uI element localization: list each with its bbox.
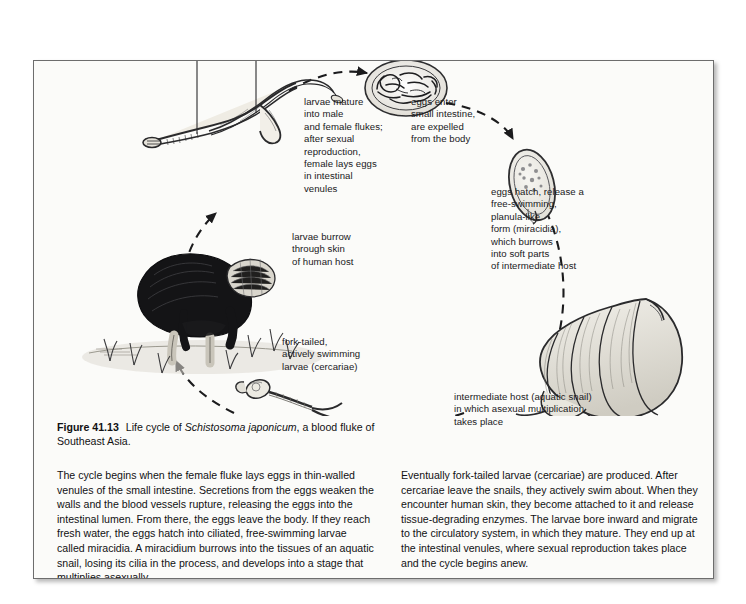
figure-number: Figure 41.13 xyxy=(57,421,119,433)
body-text-right-column: Eventually fork-tailed larvae (cercariae… xyxy=(401,468,701,570)
cercaria-illustration xyxy=(236,377,344,416)
figure-species-name: Schistosoma japonicum xyxy=(185,421,297,433)
label-eggs-enter: eggs enter small intestine, are expelled… xyxy=(411,96,475,146)
figure-page: male female larvae mature into male and … xyxy=(33,60,714,579)
figure-title-before: Life cycle of xyxy=(126,421,185,433)
label-larvae-mature: larvae mature into male and female fluke… xyxy=(304,96,383,195)
caption-block: Figure 41.13Life cycle of Schistosoma ja… xyxy=(34,416,713,578)
figure-caption: Figure 41.13Life cycle of Schistosoma ja… xyxy=(57,420,387,448)
label-larvae-burrow: larvae burrow through skin of human host xyxy=(292,231,353,268)
label-eggs-hatch: eggs hatch, release a free-swimming, pla… xyxy=(491,186,584,273)
life-cycle-diagram: male female larvae mature into male and … xyxy=(34,61,713,416)
label-cercariae: fork-tailed, actively swimming larvae (c… xyxy=(282,336,360,373)
body-text-left-column: The cycle begins when the female fluke l… xyxy=(57,468,375,579)
